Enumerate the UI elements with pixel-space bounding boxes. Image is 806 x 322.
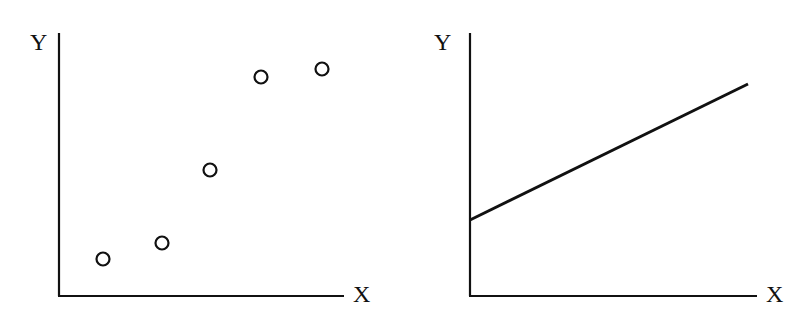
right-x-axis-label: X xyxy=(766,281,783,307)
scatter-point xyxy=(316,63,329,76)
right-line-panel: Y X xyxy=(434,29,783,307)
plots-svg: Y X Y X xyxy=(0,0,806,322)
left-y-axis-label: Y xyxy=(30,29,47,55)
diagram-canvas: Y X Y X xyxy=(0,0,806,322)
trend-line xyxy=(470,84,748,220)
left-x-axis-label: X xyxy=(353,281,370,307)
scatter-point xyxy=(97,253,110,266)
scatter-point xyxy=(156,237,169,250)
left-scatter-panel: Y X xyxy=(30,29,370,307)
scatter-point xyxy=(255,71,268,84)
scatter-points xyxy=(97,63,329,266)
scatter-point xyxy=(204,164,217,177)
right-y-axis-label: Y xyxy=(434,29,451,55)
